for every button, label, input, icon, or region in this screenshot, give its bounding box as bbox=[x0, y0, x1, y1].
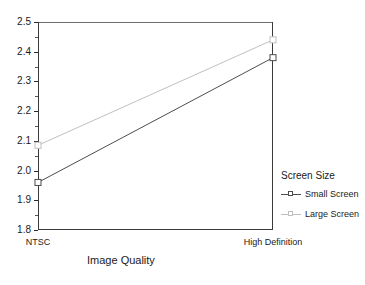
series-line-small-screen bbox=[38, 58, 273, 183]
legend-label-small-screen: Small Screen bbox=[305, 189, 359, 199]
legend-marker-small-screen bbox=[281, 190, 301, 199]
legend: Screen Size Small Screen Large Screen bbox=[281, 170, 365, 229]
y-tick-label: 2.0 bbox=[17, 166, 31, 176]
x-tick-label-ntsc: NTSC bbox=[26, 237, 51, 247]
data-point-small-screen[interactable] bbox=[270, 55, 276, 61]
y-tick-label: 1.8 bbox=[17, 225, 31, 235]
x-axis-title: Image Quality bbox=[87, 254, 155, 266]
y-tick-label: 2.3 bbox=[17, 76, 31, 86]
data-point-small-screen[interactable] bbox=[35, 179, 41, 185]
legend-marker-large-screen bbox=[281, 210, 301, 219]
data-point-large-screen[interactable] bbox=[270, 37, 276, 43]
series-line-large-screen bbox=[38, 40, 273, 145]
x-tick-label-high-definition: High Definition bbox=[244, 237, 303, 247]
legend-title: Screen Size bbox=[281, 170, 365, 182]
y-tick-label: 2.1 bbox=[17, 136, 31, 146]
data-point-large-screen[interactable] bbox=[35, 142, 41, 148]
plot-area: 1.81.92.02.12.22.32.42.5 NTSC High Defin… bbox=[38, 22, 273, 230]
legend-item-large-screen[interactable]: Large Screen bbox=[281, 209, 365, 219]
y-tick-label: 2.4 bbox=[17, 47, 31, 57]
y-tick-label: 2.2 bbox=[17, 106, 31, 116]
series-layer bbox=[38, 22, 273, 230]
legend-item-small-screen[interactable]: Small Screen bbox=[281, 189, 365, 199]
y-tick-label: 2.5 bbox=[17, 17, 31, 27]
y-tick-major bbox=[34, 230, 38, 231]
legend-label-large-screen: Large Screen bbox=[305, 209, 359, 219]
y-tick-label: 1.9 bbox=[17, 195, 31, 205]
line-chart: 1.81.92.02.12.22.32.42.5 NTSC High Defin… bbox=[0, 0, 365, 285]
